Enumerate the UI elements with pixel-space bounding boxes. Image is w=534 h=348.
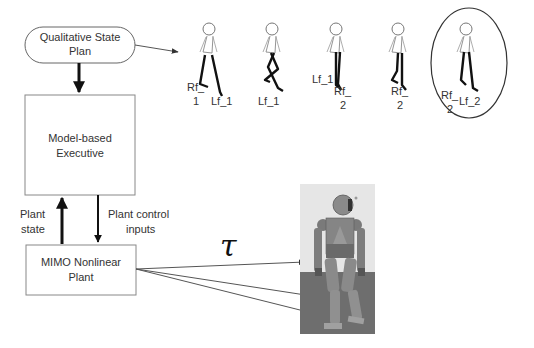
control-inputs-label-line1: Plant control (108, 208, 169, 220)
foot-label: Lf_2 (459, 95, 480, 107)
plan-label-line2: Plan (69, 45, 91, 57)
stick-figure-leg (461, 52, 466, 85)
executive-label-line2: Executive (56, 147, 104, 159)
foot-label: Lf_1 (258, 95, 279, 107)
foot-label: Lf_1 (211, 95, 232, 107)
plant-state-label-line1: Plant (20, 208, 45, 220)
foot-label: Rf_ (391, 85, 409, 97)
plan-label-line1: Qualitative State (40, 31, 121, 43)
stick-figure-torso (460, 36, 470, 53)
control-inputs-label-line2: inputs (126, 223, 156, 235)
stick-figure-leg (469, 52, 478, 91)
foot-label-index: 2 (397, 99, 403, 111)
stick-figure-torso (266, 36, 276, 53)
plant-label-line2: Plant (68, 271, 93, 283)
model-based-executive-node: Model-based Executive (25, 95, 135, 195)
stick-figure-arm (470, 37, 474, 52)
stick-figure-torso (392, 36, 402, 53)
plan-to-gait-arrow (135, 45, 178, 52)
humanoid-robot-image (300, 184, 375, 334)
plant-label-line1: MIMO Nonlinear (41, 256, 121, 268)
stick-figure-head (330, 23, 342, 35)
executive-label-line1: Model-based (48, 132, 112, 144)
stick-figure-head (203, 23, 215, 35)
stick-figure-leg (212, 55, 222, 96)
foot-label: Rf_ (441, 89, 459, 101)
stick-figure-arm (276, 37, 280, 52)
qualitative-state-plan-node: Qualitative State Plan (25, 27, 135, 63)
foot-label: Rf_ (187, 81, 205, 93)
tau-symbol: τ (220, 228, 237, 263)
stick-figure-head (392, 23, 404, 35)
gait-frame (263, 23, 283, 91)
stick-figure-arm (402, 37, 406, 52)
stick-figure-leg (392, 53, 398, 83)
foot-label: Lf_1 (312, 73, 333, 85)
foot-label: Rf_ (334, 85, 352, 97)
foot-label-index: 2 (340, 99, 346, 111)
stick-figure-torso (203, 36, 213, 53)
torque-arrow-2 (136, 269, 312, 296)
gait-frame (389, 23, 406, 90)
plant-state-label-line2: state (21, 223, 45, 235)
stick-figure-head (460, 23, 472, 35)
gait-frame (457, 23, 478, 91)
stick-figure-head (266, 23, 278, 35)
torque-arrow-3 (136, 269, 312, 313)
foot-label-index: 1 (193, 95, 199, 107)
stick-figure-arm (340, 37, 344, 52)
torque-arrow-1 (136, 262, 305, 269)
diagram-canvas: Qualitative State Plan Model-based Execu… (0, 0, 534, 348)
stick-figure-torso (330, 36, 340, 53)
mimo-nonlinear-plant-node: MIMO Nonlinear Plant (26, 245, 136, 295)
stick-figure-arm (213, 37, 217, 52)
